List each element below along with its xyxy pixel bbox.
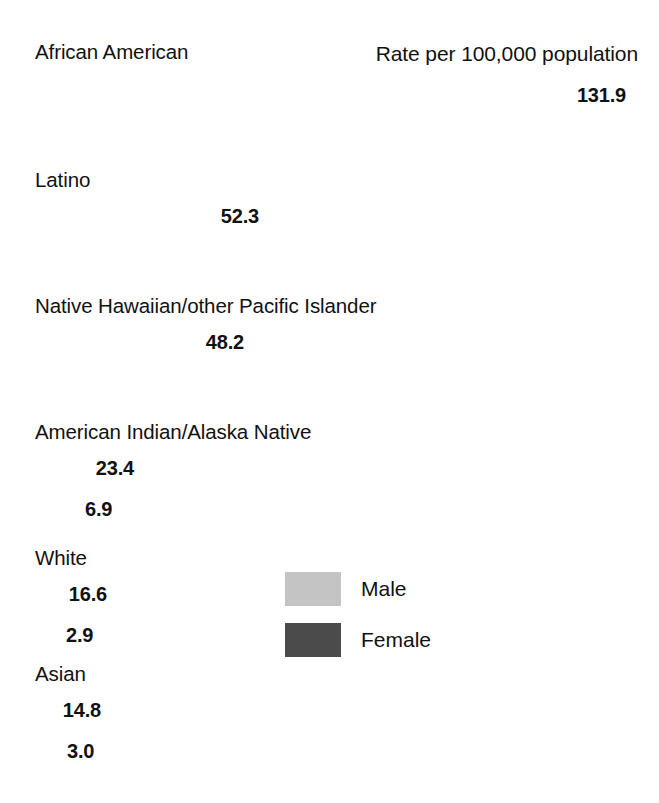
bar-group-label: American Indian/Alaska Native: [35, 420, 311, 444]
legend-swatch-female-icon: [285, 623, 341, 657]
bar-value-label: 10.6: [46, 371, 84, 394]
bar-male: 16.6: [42, 574, 117, 614]
bar-value-label: 3.0: [67, 739, 94, 762]
bar-female: 6.9: [42, 488, 75, 529]
bar-chart-figure: Rate per 100,000 population African Amer…: [0, 0, 659, 803]
bar-male: 131.9: [42, 77, 638, 113]
bar-male: 48.2: [42, 322, 258, 362]
bar-female: 13.3: [42, 236, 102, 277]
bar-value-label: 48.2: [206, 331, 244, 354]
bar-value-label: 23.4: [96, 457, 134, 480]
bar-female: 2.9: [42, 614, 56, 655]
bar-value-label: 16.6: [69, 583, 107, 606]
bar-group-label: Latino: [35, 168, 90, 192]
bar-value-label: 131.9: [577, 84, 626, 107]
legend-label-female: Female: [361, 628, 431, 652]
bar-male: 23.4: [42, 448, 146, 488]
bar-female: 3.0: [42, 730, 57, 771]
bar-group-label: Asian: [35, 662, 86, 686]
bar-value-label: 56.0: [243, 122, 281, 145]
bar-value-label: 2.9: [66, 623, 93, 646]
rate-per-100000-note: Rate per 100,000 population: [376, 42, 638, 66]
bar-value-label: 6.9: [85, 497, 112, 520]
bar-female: 56.0: [42, 113, 295, 154]
bar-group-label: White: [35, 546, 87, 570]
bar-group-label: African American: [35, 40, 188, 64]
bar-male: 14.8: [42, 690, 109, 730]
bar-value-label: 13.3: [48, 245, 86, 268]
bar-group-label: Native Hawaiian/other Pacific Islander: [35, 294, 376, 318]
legend-swatch-male-icon: [285, 572, 341, 606]
bar-value-label: 52.3: [221, 205, 259, 228]
legend-label-male: Male: [361, 577, 407, 601]
bar-female: 10.6: [42, 362, 90, 403]
bar-male: 52.3: [42, 196, 273, 236]
bar-value-label: 14.8: [63, 699, 101, 722]
